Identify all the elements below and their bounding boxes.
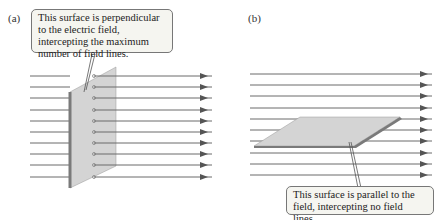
arrowhead-icon — [200, 174, 208, 180]
perpendicular-surface — [70, 67, 116, 188]
callout-b: This surface is parallel to the field, i… — [286, 186, 434, 215]
arrowhead-icon — [420, 105, 428, 111]
arrowhead-icon — [200, 84, 208, 90]
callout-b-pointer — [349, 142, 361, 188]
arrowhead-icon — [200, 162, 208, 168]
arrowhead-icon — [420, 161, 428, 167]
arrowhead-icon — [420, 138, 428, 144]
arrowhead-icon — [200, 73, 208, 79]
arrowhead-icon — [200, 95, 208, 101]
callout-a: This surface is perpendicular to the ele… — [31, 9, 173, 53]
arrowhead-icon — [420, 71, 428, 77]
arrowhead-icon — [200, 151, 208, 157]
parallel-surface — [254, 117, 402, 148]
arrowhead-icon — [200, 118, 208, 124]
arrowhead-icon — [200, 107, 208, 113]
panel-a-lines-behind — [30, 76, 70, 177]
arrowhead-icon — [420, 150, 428, 156]
arrowhead-icon — [420, 172, 428, 178]
arrowhead-icon — [200, 140, 208, 146]
arrowhead-icon — [200, 129, 208, 135]
arrowhead-icon — [420, 127, 428, 133]
arrowhead-icon — [420, 82, 428, 88]
arrowhead-icon — [420, 93, 428, 99]
arrowhead-icon — [420, 116, 428, 122]
